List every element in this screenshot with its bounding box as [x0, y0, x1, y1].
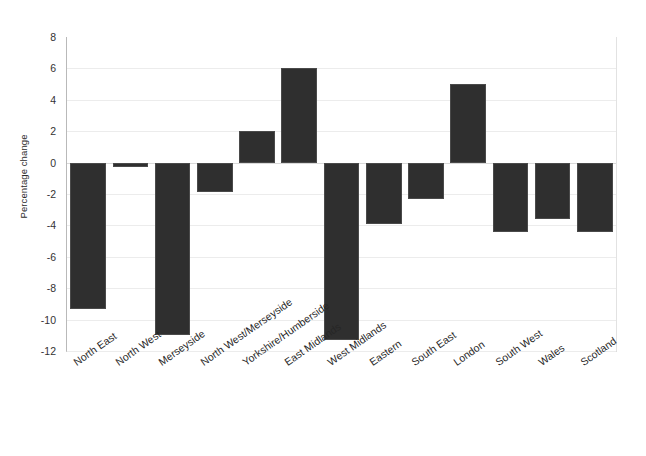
bar: [408, 163, 444, 199]
bar-series: [67, 37, 616, 351]
bar: [113, 163, 149, 168]
bar: [197, 163, 233, 193]
y-axis-title-text: Percentage change: [18, 134, 29, 218]
bar: [366, 163, 402, 224]
y-tick-label: 0: [50, 157, 56, 169]
bar: [70, 163, 106, 309]
y-tick-label: 4: [50, 94, 56, 106]
y-tick-label: -10: [41, 314, 56, 326]
y-tick-label: -4: [47, 219, 56, 231]
bar: [324, 163, 360, 340]
bar: [493, 163, 529, 232]
bar: [155, 163, 191, 336]
y-tick-label: -6: [47, 251, 56, 263]
bar: [450, 84, 486, 163]
bar: [281, 68, 317, 162]
y-tick-label: -8: [47, 282, 56, 294]
y-tick-label: 6: [50, 62, 56, 74]
y-tick-label: 2: [50, 125, 56, 137]
x-axis-tick-labels: North EastNorth WestMerseysideNorth West…: [0, 352, 646, 456]
plot-area: [66, 37, 617, 352]
bar: [239, 131, 275, 162]
y-axis-title: Percentage change: [0, 0, 46, 352]
y-tick-label: -2: [47, 188, 56, 200]
bar: [535, 163, 571, 220]
chart-page: Percentage change 86420-2-4-6-8-10-12 No…: [0, 0, 646, 456]
y-tick-label: 8: [50, 31, 56, 43]
bar: [577, 163, 613, 232]
